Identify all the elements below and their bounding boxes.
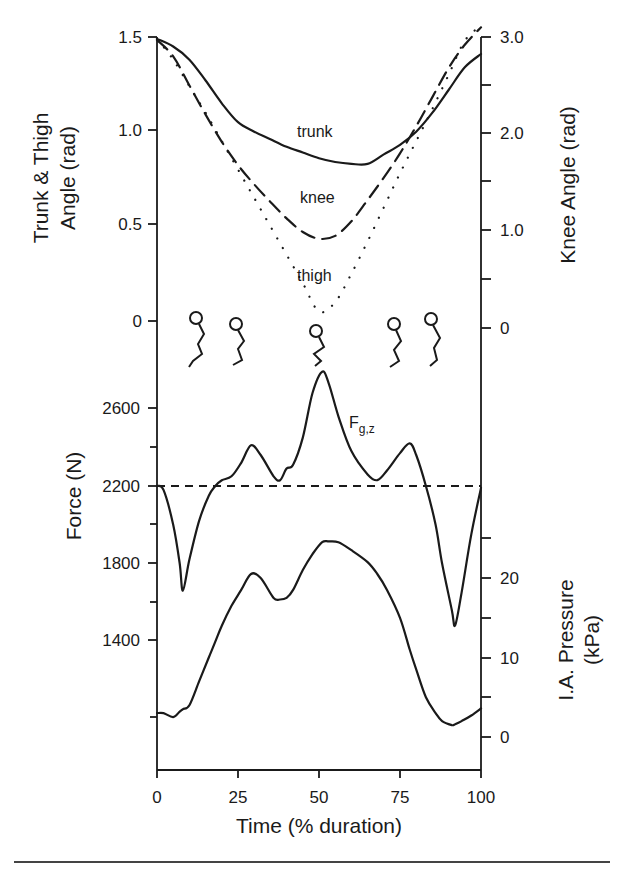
left-tick-labels-angle: 1.5 1.0 0.5 0	[118, 28, 142, 331]
right-tick-labels-knee: 3.0 2.0 1.0 0	[500, 28, 524, 338]
right-axis-title-pressure: I.A. Pressure (kPa)	[554, 579, 603, 700]
right-ticks-knee	[481, 37, 491, 328]
pressure-tick-10: 10	[500, 649, 519, 668]
tick-label-0.5: 0.5	[118, 215, 142, 234]
svg-text:Force (N): Force (N)	[62, 452, 85, 541]
biomechanics-figure: 1.5 1.0 0.5 0 3.0 2.0 1.0 0 2600 2200 18…	[0, 0, 622, 874]
force-tick-2200: 2200	[102, 477, 140, 496]
x-ticks	[157, 770, 481, 778]
right-axis-title-knee: Knee Angle (rad)	[556, 106, 579, 264]
stick-figure-icon	[425, 313, 440, 366]
x-tick-50: 50	[310, 788, 329, 807]
pressure-tick-0: 0	[500, 728, 509, 747]
force-tick-1400: 1400	[102, 631, 140, 650]
x-tick-100: 100	[467, 788, 495, 807]
curve-i-a-pressure	[157, 541, 481, 725]
svg-text:Trunk & Thigh: Trunk & Thigh	[29, 113, 52, 244]
stick-figure-icon	[388, 318, 401, 367]
curve-trunk	[157, 39, 481, 165]
label-thigh: thigh	[297, 267, 332, 284]
force-tick-1800: 1800	[102, 554, 140, 573]
tick-label-1.0: 1.0	[118, 121, 142, 140]
svg-text:(kPa): (kPa)	[580, 615, 603, 665]
caption-divider-rule	[14, 861, 610, 863]
knee-tick-1.0: 1.0	[500, 221, 524, 240]
x-tick-labels: 0 25 50 75 100	[152, 788, 495, 807]
stick-figure-icon	[189, 312, 204, 367]
label-trunk: trunk	[297, 123, 334, 140]
x-tick-0: 0	[152, 788, 161, 807]
stick-figure-icon	[310, 325, 324, 366]
svg-text:Knee Angle (rad): Knee Angle (rad)	[556, 106, 579, 264]
tick-label-0: 0	[133, 312, 142, 331]
left-tick-labels-force: 2600 2200 1800 1400	[102, 399, 140, 650]
force-tick-2600: 2600	[102, 399, 140, 418]
left-axis-title-force: Force (N)	[62, 452, 85, 541]
stick-figures	[189, 312, 440, 367]
curve-f-g-z	[157, 371, 481, 626]
knee-tick-3.0: 3.0	[500, 28, 524, 47]
tick-label-1.5: 1.5	[118, 28, 142, 47]
x-tick-25: 25	[229, 788, 248, 807]
left-ticks-force	[148, 408, 157, 717]
right-ticks-pressure	[481, 538, 491, 737]
right-tick-labels-pressure: 20 10 0	[500, 569, 519, 747]
knee-tick-2.0: 2.0	[500, 124, 524, 143]
left-axis-title-angle: Trunk & Thigh Angle (rad)	[29, 113, 79, 244]
x-axis-title: Time (% duration)	[236, 814, 402, 837]
label-knee: knee	[300, 189, 335, 206]
pressure-tick-20: 20	[500, 569, 519, 588]
left-ticks-angle	[148, 37, 157, 321]
axes-frame	[157, 37, 481, 770]
x-tick-75: 75	[391, 788, 410, 807]
svg-text:I.A. Pressure: I.A. Pressure	[554, 579, 577, 700]
label-force: Fg,z	[349, 414, 375, 436]
stick-figure-icon	[230, 318, 244, 365]
knee-tick-0: 0	[500, 319, 509, 338]
svg-text:Angle (rad): Angle (rad)	[56, 126, 79, 230]
